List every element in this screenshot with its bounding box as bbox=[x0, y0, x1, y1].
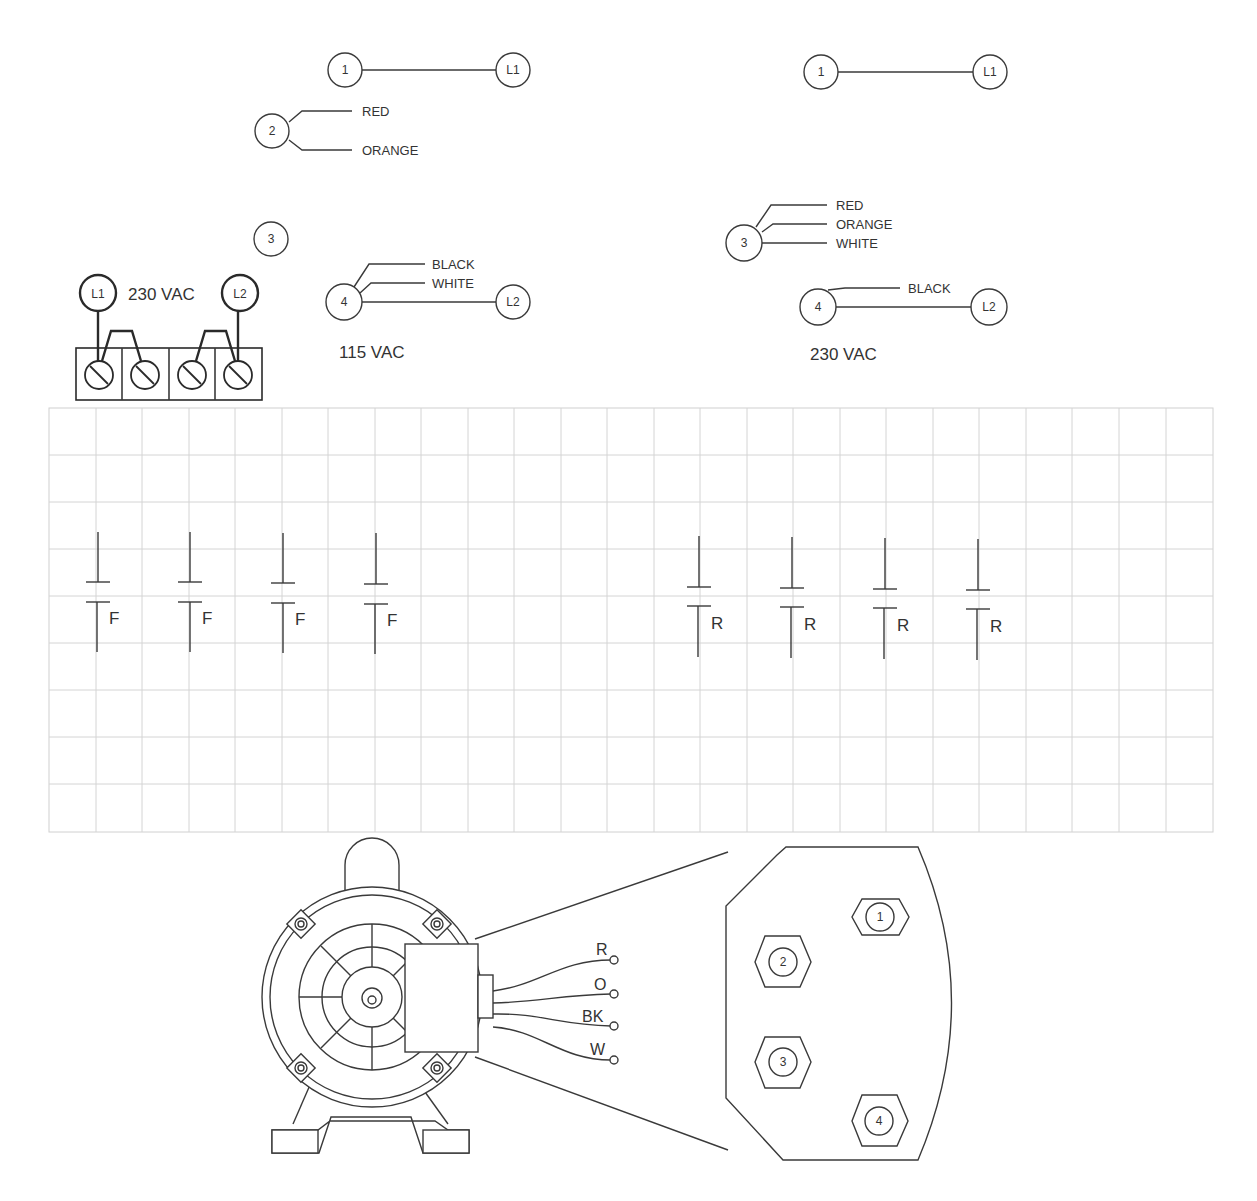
svg-text:F: F bbox=[387, 611, 397, 630]
line-l1-label: L1 bbox=[506, 63, 520, 77]
terminal-1-label: 1 bbox=[342, 63, 349, 77]
ladder-grid bbox=[49, 408, 1213, 832]
voltage-label-115: 115 VAC bbox=[339, 343, 405, 362]
svg-text:4: 4 bbox=[876, 1114, 883, 1128]
screw-icon bbox=[131, 361, 159, 389]
line-l2-label: L2 bbox=[982, 300, 996, 314]
terminal-block-230vac: L1 L2 230 VAC bbox=[76, 275, 262, 400]
wire-orange-label: ORANGE bbox=[362, 143, 419, 158]
panel-230vac: 1 L1 3 RED ORANGE WHITE 4 L2 BLACK 230 V… bbox=[726, 55, 1007, 364]
motor-end-view bbox=[262, 838, 728, 1153]
wire-white-label: WHITE bbox=[432, 276, 474, 291]
svg-text:1: 1 bbox=[877, 910, 884, 924]
contact-f3: F bbox=[271, 533, 305, 653]
wire-orange-label: ORANGE bbox=[836, 217, 893, 232]
terminal-plate: 1 2 3 4 bbox=[726, 847, 952, 1160]
screw-icon bbox=[224, 361, 252, 389]
lead-r-label: R bbox=[596, 941, 608, 958]
line-l1-label: L1 bbox=[91, 287, 105, 301]
motor-wiring-diagram: 1 L1 2 RED ORANGE 3 4 L2 BLACK WHITE 115… bbox=[0, 0, 1257, 1201]
svg-text:R: R bbox=[990, 617, 1002, 636]
hex-terminal-3: 3 bbox=[755, 1037, 811, 1088]
contact-f1: F bbox=[86, 532, 119, 652]
motor-lead-labels: R O BK W bbox=[582, 941, 608, 1058]
svg-text:F: F bbox=[109, 609, 119, 628]
terminal-3-label: 3 bbox=[268, 232, 275, 246]
lead-bk-label: BK bbox=[582, 1008, 604, 1025]
contact-f4: F bbox=[364, 533, 397, 654]
lead-o-label: O bbox=[594, 976, 606, 993]
svg-text:R: R bbox=[711, 614, 723, 633]
wire-red-label: RED bbox=[362, 104, 389, 119]
svg-text:3: 3 bbox=[780, 1055, 787, 1069]
lead-w-label: W bbox=[590, 1041, 606, 1058]
wire-black-label: BLACK bbox=[432, 257, 475, 272]
reverse-contacts: R R R R bbox=[687, 536, 1002, 660]
contact-r4: R bbox=[966, 539, 1002, 660]
line-l2-label: L2 bbox=[233, 287, 247, 301]
forward-contacts: F F F F bbox=[86, 532, 397, 654]
screw-icon bbox=[178, 361, 206, 389]
panel-115vac: 1 L1 2 RED ORANGE 3 4 L2 BLACK WHITE 115… bbox=[254, 53, 530, 362]
wire-black-label: BLACK bbox=[908, 281, 951, 296]
terminal-4-label: 4 bbox=[815, 300, 822, 314]
line-l1-label: L1 bbox=[983, 65, 997, 79]
voltage-label-230: 230 VAC bbox=[810, 345, 877, 364]
terminal-2-label: 2 bbox=[269, 124, 276, 138]
contact-r3: R bbox=[873, 538, 909, 659]
svg-text:F: F bbox=[202, 609, 212, 628]
terminal-1-label: 1 bbox=[818, 65, 825, 79]
contact-r2: R bbox=[780, 537, 816, 658]
svg-text:R: R bbox=[804, 615, 816, 634]
hex-terminal-2: 2 bbox=[755, 936, 811, 987]
hex-terminal-4: 4 bbox=[852, 1095, 908, 1146]
svg-text:2: 2 bbox=[780, 955, 787, 969]
wire-white-label: WHITE bbox=[836, 236, 878, 251]
terminal-3-label: 3 bbox=[741, 236, 748, 250]
voltage-label-block: 230 VAC bbox=[128, 285, 195, 304]
line-l2-label: L2 bbox=[506, 295, 520, 309]
contact-f2: F bbox=[178, 532, 212, 652]
screw-icon bbox=[85, 361, 113, 389]
svg-text:F: F bbox=[295, 610, 305, 629]
svg-text:R: R bbox=[897, 616, 909, 635]
terminal-4-label: 4 bbox=[341, 295, 348, 309]
hex-terminal-1: 1 bbox=[852, 899, 909, 935]
wire-red-label: RED bbox=[836, 198, 863, 213]
